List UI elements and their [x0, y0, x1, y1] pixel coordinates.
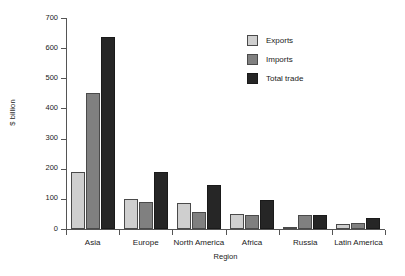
bar-group	[124, 18, 168, 229]
bar	[124, 199, 138, 229]
y-axis-line	[66, 18, 67, 230]
x-axis-tick-mark	[279, 230, 280, 235]
y-axis-tick-label: 100	[45, 193, 58, 202]
x-axis-category-label: Europe	[119, 238, 172, 247]
bar	[139, 202, 153, 229]
bar	[154, 172, 168, 229]
legend-swatch-icon	[247, 35, 258, 46]
y-axis-tick-label: 200	[45, 163, 58, 172]
x-axis-title: Region	[66, 252, 385, 261]
bar	[351, 223, 365, 229]
legend: ExportsImportsTotal trade	[247, 31, 303, 88]
bar	[313, 215, 327, 229]
x-axis-category-label: North America	[172, 238, 225, 247]
x-axis-tick-mark	[119, 230, 120, 235]
x-axis-tick-mark	[332, 230, 333, 235]
y-axis-tick: 300	[61, 139, 66, 140]
legend-item[interactable]: Total trade	[247, 69, 303, 88]
legend-label: Exports	[266, 36, 293, 45]
bar	[366, 218, 380, 229]
legend-item[interactable]: Exports	[247, 31, 303, 50]
y-axis-tick-label: 500	[45, 73, 58, 82]
y-axis-tick: 700	[61, 18, 66, 19]
y-axis-tick-mark	[61, 169, 66, 170]
bar	[283, 227, 297, 229]
y-axis-tick: 100	[61, 199, 66, 200]
bar	[260, 200, 274, 229]
y-axis-tick-label: 400	[45, 103, 58, 112]
bar	[86, 93, 100, 229]
x-axis-tick-mark	[226, 230, 227, 235]
x-axis-category-label: Russia	[279, 238, 332, 247]
bar	[336, 224, 350, 229]
x-axis-category-label: Latin America	[332, 238, 385, 247]
bar	[192, 212, 206, 229]
x-axis-tick-mark	[172, 230, 173, 235]
y-axis-tick-mark	[61, 48, 66, 49]
y-axis-tick: 400	[61, 108, 66, 109]
bar-chart: $ billion 0100200300400500600700 AsiaEur…	[0, 0, 405, 276]
bar-group	[336, 18, 380, 229]
y-axis-title: $ billion	[8, 83, 17, 143]
legend-item[interactable]: Imports	[247, 50, 303, 69]
clipped-title	[0, 0, 405, 8]
y-axis-tick-mark	[61, 199, 66, 200]
legend-label: Total trade	[266, 74, 303, 83]
legend-swatch-icon	[247, 54, 258, 65]
y-axis-tick-mark	[61, 18, 66, 19]
y-axis-tick-mark	[61, 139, 66, 140]
bar	[207, 185, 221, 229]
x-axis-category-label: Asia	[66, 238, 119, 247]
y-axis-tick-label: 600	[45, 43, 58, 52]
bar	[177, 203, 191, 229]
bar	[101, 37, 115, 229]
bar	[245, 215, 259, 229]
plot-area: 0100200300400500600700	[66, 18, 385, 230]
legend-label: Imports	[266, 55, 293, 64]
y-axis-tick-mark	[61, 108, 66, 109]
bar	[71, 172, 85, 229]
y-axis-tick-label: 700	[45, 13, 58, 22]
bar-group	[71, 18, 115, 229]
x-axis-category-label: Africa	[226, 238, 279, 247]
bar-group	[177, 18, 221, 229]
y-axis-tick: 500	[61, 78, 66, 79]
bar	[230, 214, 244, 229]
x-axis-tick-mark	[66, 230, 67, 235]
legend-swatch-icon	[247, 73, 258, 84]
bar	[298, 215, 312, 229]
y-axis-tick-mark	[61, 78, 66, 79]
y-axis-tick-label: 300	[45, 133, 58, 142]
y-axis-tick: 600	[61, 48, 66, 49]
x-axis-tick-mark	[385, 230, 386, 235]
y-axis-tick: 200	[61, 169, 66, 170]
y-axis-tick-label: 0	[54, 224, 58, 233]
